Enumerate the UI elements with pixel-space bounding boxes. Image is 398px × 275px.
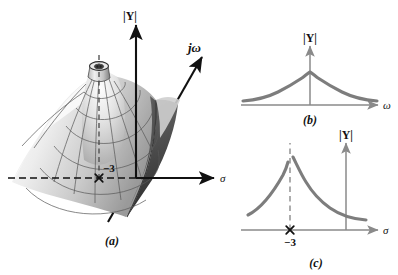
panel-a-3d-surface: |Y| σ jω −3 (a) — [8, 9, 226, 248]
panel-c-magnitude-label: |Y| — [339, 128, 353, 142]
panel-a-magnitude-label: |Y| — [123, 9, 137, 23]
panel-c-sigma-label: σ — [383, 224, 389, 236]
panel-a-sigma-label: σ — [220, 172, 226, 184]
panel-c-left-branch — [248, 162, 288, 215]
panel-b-omega-label: ω — [383, 99, 391, 111]
surface-body — [12, 62, 180, 217]
panel-b-frequency-response: |Y| ω (b) — [241, 31, 391, 127]
panel-b-caption: (b) — [303, 113, 317, 127]
surface-cone — [82, 72, 125, 165]
pole-magnitude-figure: |Y| σ jω −3 (a) |Y| ω (b) |Y| σ −3 (c) — [0, 0, 398, 275]
panel-b-magnitude-label: |Y| — [303, 31, 317, 45]
panel-a-jomega-label: jω — [186, 40, 201, 55]
panel-c-pole-tick-label: −3 — [284, 236, 296, 248]
panel-a-caption: (a) — [105, 234, 119, 248]
panel-c-right-branch — [293, 157, 366, 220]
panel-a-pole-tick-label: −3 — [103, 162, 115, 174]
panel-c-caption: (c) — [309, 256, 322, 270]
panel-c-sigma-response: |Y| σ −3 (c) — [241, 128, 389, 270]
